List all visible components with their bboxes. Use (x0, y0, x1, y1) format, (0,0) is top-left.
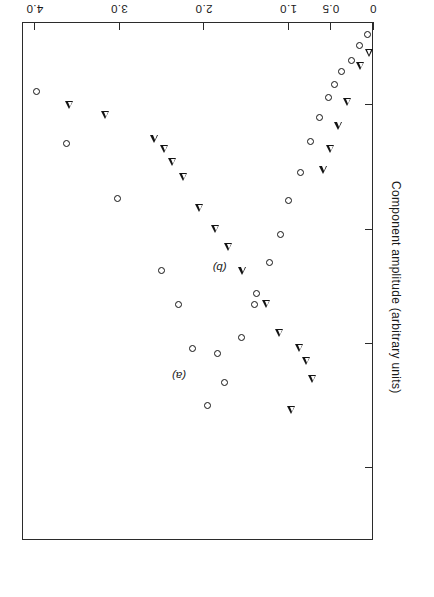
x-tick-mark (288, 22, 289, 30)
x-tick-label: 0.5 (322, 3, 339, 15)
data-point-triangle (334, 122, 342, 130)
scatter-figure: 00.51.02.03.04.0 (a)(b) Frequency (MHz) … (0, 0, 434, 597)
data-point-triangle (295, 344, 303, 352)
data-point-circle (189, 345, 196, 352)
data-point-triangle (65, 101, 73, 109)
x-tick-mark (119, 22, 120, 30)
data-point-triangle (308, 375, 316, 383)
x-tick-label: 3.0 (111, 3, 128, 15)
data-point-triangle (287, 407, 295, 415)
y-tick-mark (365, 104, 373, 105)
data-point-triangle (326, 145, 334, 153)
y-tick-mark (365, 343, 373, 344)
data-point-triangle (356, 62, 364, 70)
data-point-circle (331, 81, 338, 88)
data-point-triangle (302, 357, 310, 365)
data-point-triangle (319, 166, 327, 174)
data-point-triangle (150, 135, 158, 143)
y-tick-mark (365, 467, 373, 468)
data-point-triangle (238, 267, 246, 275)
data-point-triangle (211, 225, 219, 233)
x-tick-label: 0 (370, 3, 377, 15)
figure-rotated-180: 00.51.02.03.04.0 (a)(b) Frequency (MHz) … (0, 0, 434, 597)
x-tick-mark (330, 22, 331, 30)
data-point-triangle (101, 111, 109, 119)
x-tick-label: 4.0 (26, 3, 43, 15)
x-tick-label: 2.0 (195, 3, 212, 15)
data-point-triangle (195, 204, 203, 212)
data-point-circle (114, 195, 121, 202)
data-point-circle (251, 301, 258, 308)
data-point-circle (338, 68, 345, 75)
series-label-b: (b) (213, 262, 227, 274)
x-tick-mark (372, 22, 373, 30)
data-point-triangle (179, 173, 187, 181)
data-point-circle (175, 301, 182, 308)
data-point-circle (356, 42, 363, 49)
y-tick-mark (365, 229, 373, 230)
data-point-circle (214, 350, 221, 357)
data-point-triangle (168, 158, 176, 166)
data-point-triangle (365, 49, 373, 57)
data-point-triangle (224, 243, 232, 251)
data-point-circle (307, 138, 314, 145)
x-tick-mark (203, 22, 204, 30)
data-point-triangle (275, 329, 283, 337)
x-tick-mark (34, 22, 35, 30)
y-axis-title: Component amplitude (arbitrary units) (389, 181, 403, 394)
series-label-a: (a) (172, 370, 186, 382)
data-point-circle (204, 402, 211, 409)
data-point-circle (325, 94, 332, 101)
data-point-circle (297, 169, 304, 176)
plot-frame (22, 22, 373, 540)
data-point-circle (348, 57, 355, 64)
data-point-triangle (160, 145, 168, 153)
x-tick-label: 1.0 (280, 3, 297, 15)
data-point-triangle (262, 300, 270, 308)
data-point-circle (221, 379, 228, 386)
data-point-triangle (343, 98, 351, 106)
